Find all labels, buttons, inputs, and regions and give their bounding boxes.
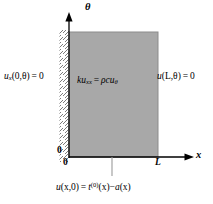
heat-equation-domain-figure: θ x 0 0 L ux(0,θ) = 0 u(L,θ) = 0 kuxx = …	[0, 0, 213, 204]
theta-axis-label: θ	[85, 2, 90, 13]
x-axis-end-tick-label: L	[155, 158, 161, 168]
left-boundary-condition-label: ux(0,θ) = 0	[4, 72, 44, 82]
ic-rhs2-arguments: (x)	[120, 182, 131, 192]
x-axis-arrowhead	[185, 153, 195, 160]
diagram-canvas	[0, 0, 213, 204]
pde-rhs-coefficient: ρc	[101, 75, 110, 85]
insulated-boundary-hatching	[60, 30, 70, 162]
x-axis-label: x	[196, 150, 201, 161]
solution-region-rect	[69, 32, 158, 157]
pde-rhs-subscript: θ	[115, 78, 118, 85]
bc-left-value: 0	[39, 71, 44, 81]
x-axis-origin-tick-label: 0	[63, 158, 68, 168]
governing-pde-label: kuxx = ρcuθ	[77, 76, 118, 86]
bc-right-value: 0	[190, 71, 195, 81]
pde-relation: =	[94, 75, 99, 85]
bc-left-relation: =	[32, 71, 37, 81]
ic-lhs-arguments: (x,0)	[61, 182, 79, 192]
bc-right-arguments: (L,θ)	[162, 71, 181, 81]
ic-rhs-arguments: (x)	[98, 182, 109, 192]
pde-lhs-subscript: xx	[86, 78, 92, 85]
ic-relation: =	[81, 182, 86, 192]
right-boundary-condition-label: u(L,θ) = 0	[157, 72, 195, 82]
theta-axis-origin-tick-label: 0	[57, 146, 62, 156]
initial-condition-label: u(x,0) = t(0)(x)−a(x)	[56, 183, 131, 193]
bc-left-arguments: (0,θ)	[12, 71, 30, 81]
theta-axis-arrowhead	[65, 12, 72, 22]
bc-right-relation: =	[183, 71, 188, 81]
